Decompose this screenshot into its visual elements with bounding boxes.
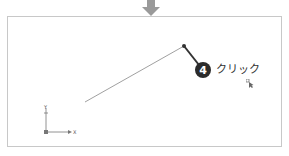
ucs-y-label: Y [44, 104, 47, 110]
step-number-badge: 4 [195, 62, 211, 78]
crosshair-cursor-icon [246, 79, 254, 88]
ucs-icon [44, 108, 72, 134]
drawn-line [85, 46, 184, 102]
drawing-canvas [0, 0, 289, 156]
callout-action-label: クリック [216, 62, 260, 78]
ucs-x-label: X [73, 129, 76, 135]
callout-leader [184, 46, 199, 65]
